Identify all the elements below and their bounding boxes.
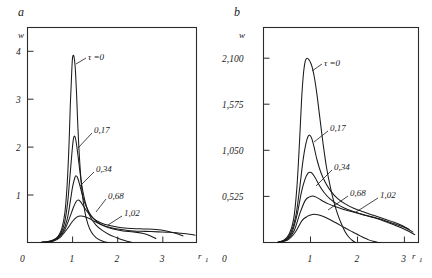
- panel-a-ytick-label-1: 1: [16, 191, 21, 201]
- panel-b-xtick-label-3: 3: [400, 254, 406, 264]
- chart-panel-a: a w r 1 0 1 2 3 4 1 2 3: [0, 0, 216, 278]
- panel-a-leader-068: [96, 199, 106, 212]
- panel-b-label-034: 0,34: [334, 162, 350, 172]
- panel-b-annotations: τ =0 0,17 0,34 0,68 1,02: [312, 58, 396, 212]
- panel-b-x-axis-subscript: 1: [419, 256, 423, 264]
- figure-container: a w r 1 0 1 2 3 4 1 2 3: [0, 0, 432, 278]
- panel-a-x-axis-name: r: [198, 251, 202, 261]
- panel-b-label-102: 1,02: [380, 190, 396, 200]
- panel-b-plot-frame: [264, 28, 419, 243]
- panel-a-xtick-label-1: 1: [70, 254, 75, 264]
- panel-a-y-axis-name: w: [18, 30, 24, 40]
- panel-a-y-ticks: [28, 51, 34, 195]
- panel-b-x-ticks: [311, 237, 405, 243]
- panel-b-label-017: 0,17: [330, 123, 346, 133]
- panel-b-leader-tau0: [312, 64, 322, 71]
- panel-b-label-tau0: τ =0: [324, 58, 341, 68]
- panel-b-label-068: 0,68: [350, 188, 366, 198]
- panel-b-ytick-label-1: 0,525: [222, 192, 244, 202]
- panel-b-y-axis-name: w: [239, 30, 245, 40]
- panel-b-ytick-label-2: 1,050: [222, 146, 244, 156]
- panel-a-label-034: 0,34: [96, 164, 112, 174]
- panel-a-plot-frame: [28, 28, 197, 243]
- panel-b-leader-017: [314, 131, 328, 142]
- panel-a-x-axis-subscript: 1: [205, 256, 209, 264]
- panel-a-label-tau0: τ =0: [88, 52, 105, 62]
- panel-a-ytick-label-3: 3: [15, 95, 21, 105]
- panel-b-y-ticks: [264, 58, 270, 196]
- panel-a-curves: [41, 55, 195, 242]
- panel-a-x-ticks: [73, 237, 163, 243]
- panel-a-label-102: 1,02: [124, 208, 140, 218]
- panel-a-leader-102: [108, 216, 122, 225]
- panel-a-leader-tau0: [76, 58, 86, 64]
- panel-a-leader-034: [80, 172, 94, 186]
- panel-a-ytick-label-4: 4: [16, 47, 21, 57]
- panel-b-svg: b w r 1 0 0,525 1,050 1,575 2,100 1 2: [216, 0, 432, 278]
- panel-b-xtick-label-1: 1: [307, 254, 312, 264]
- panel-b-ytick-label-4: 2,100: [222, 54, 244, 64]
- panel-b-xtick-label-2: 2: [354, 254, 359, 264]
- panel-a-label-068: 0,68: [108, 191, 124, 201]
- curve-a-0: [41, 55, 109, 242]
- panel-a-letter: a: [18, 5, 24, 19]
- panel-b-leader-102: [356, 198, 378, 212]
- chart-panel-b: b w r 1 0 0,525 1,050 1,575 2,100 1 2: [216, 0, 432, 278]
- panel-a-label-017: 0,17: [94, 125, 110, 135]
- panel-a-xtick-label-2: 2: [115, 254, 120, 264]
- panel-b-origin-label: 0: [222, 254, 227, 264]
- panel-a-svg: a w r 1 0 1 2 3 4 1 2 3: [0, 0, 216, 278]
- curve-a-1: [41, 136, 132, 242]
- panel-a-leader-017: [78, 133, 92, 148]
- panel-b-ytick-label-3: 1,575: [222, 100, 244, 110]
- panel-a-origin-label: 0: [20, 254, 25, 264]
- panel-b-x-axis-name: r: [412, 251, 416, 261]
- panel-b-letter: b: [234, 5, 240, 19]
- panel-a-xtick-label-3: 3: [159, 254, 165, 264]
- panel-a-annotations: τ =0 0,17 0,34 0,68 1,02: [76, 52, 140, 225]
- panel-a-ytick-label-2: 2: [16, 143, 21, 153]
- panel-b-curves: [278, 58, 415, 242]
